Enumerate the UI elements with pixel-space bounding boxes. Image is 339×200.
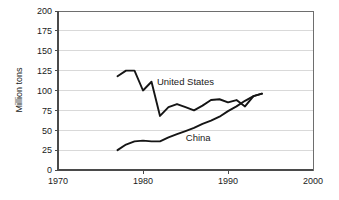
annotation-china: China xyxy=(186,132,212,143)
y-tick-label: 100 xyxy=(37,86,52,96)
y-axis-title: Million tons xyxy=(14,67,24,113)
y-tick-label: 175 xyxy=(37,26,52,36)
x-tick-label: 1970 xyxy=(48,176,68,186)
y-tick-label: 75 xyxy=(42,106,52,116)
y-tick-label: 0 xyxy=(47,165,52,175)
y-tick-label: 125 xyxy=(37,66,52,76)
annotation-united-states: United States xyxy=(157,76,214,87)
y-tick-label: 50 xyxy=(42,126,52,136)
chart-figure: 0255075100125150175200 1970198019902000 … xyxy=(0,0,339,200)
x-tick-label: 1980 xyxy=(133,176,153,186)
y-tick-label: 150 xyxy=(37,46,52,56)
y-tick-label: 25 xyxy=(42,145,52,155)
y-tick-label: 200 xyxy=(37,6,52,16)
line-chart: 0255075100125150175200 1970198019902000 … xyxy=(0,0,339,200)
x-tick-label: 1990 xyxy=(218,176,238,186)
x-tick-label: 2000 xyxy=(303,176,323,186)
